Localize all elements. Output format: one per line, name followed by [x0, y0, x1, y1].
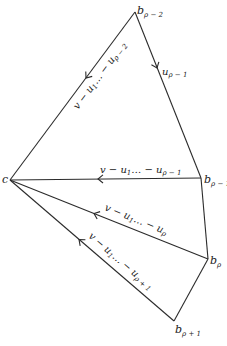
vertex-label-b-rho-plus-1: bρ + 1: [175, 323, 201, 338]
edge-label-u-rho-minus-1: uρ − 1: [162, 66, 187, 79]
vertex-label-c: c: [2, 173, 8, 186]
vertex-label-b-rho-minus-2: bρ − 2: [137, 4, 163, 19]
edge-b-rho-plus-1-to-c: [10, 180, 174, 321]
edge-b-rho-to-b-rho-plus-1: [174, 259, 208, 321]
edge-label-top-left: v − u1… − uρ − 2: [71, 39, 130, 113]
edge-label-middle: v − u1… − uρ − 1: [100, 164, 181, 177]
edge-label-bottom: v − u1… − uρ + 1: [85, 230, 155, 293]
edge-label-lower: v − u1… − uρ: [103, 202, 170, 239]
edge-b-rho-minus-1-to-c: [10, 178, 201, 180]
edge-b-rho-minus-2-to-b-rho-minus-1: [135, 12, 201, 178]
polygon-path-diagram: bρ − 2 c bρ − 1 bρ bρ + 1 uρ − 1 v − u1……: [0, 0, 227, 346]
edge-b-rho-minus-1-to-b-rho: [201, 178, 208, 259]
vertex-label-b-rho-minus-1: bρ − 1: [204, 173, 227, 188]
edge-b-rho-minus-2-to-c: [10, 12, 135, 180]
vertex-label-b-rho: bρ: [210, 254, 222, 269]
